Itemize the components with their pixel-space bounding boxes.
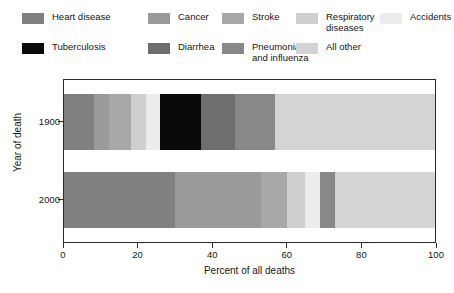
- legend-item: Cancer: [148, 12, 209, 24]
- bar-segment: [275, 94, 435, 150]
- x-tick: [286, 243, 287, 248]
- bar-segment: [305, 172, 320, 228]
- x-tick: [137, 243, 138, 248]
- bar-segment: [235, 94, 276, 150]
- x-tick-label: 20: [132, 249, 143, 260]
- x-tick: [436, 243, 437, 248]
- stacked-bar-chart-figure: Heart diseaseCancerStrokeRespiratory dis…: [0, 0, 454, 293]
- legend-item: Respiratory diseases: [296, 12, 375, 33]
- legend-swatch: [22, 13, 44, 24]
- legend-label: Respiratory diseases: [326, 12, 375, 33]
- plot-area: [63, 79, 436, 243]
- chart-legend: Heart diseaseCancerStrokeRespiratory dis…: [0, 0, 454, 76]
- y-axis-title: Year of death: [12, 98, 23, 188]
- stacked-bar-2000: [64, 172, 435, 228]
- stacked-bar-1900: [64, 94, 435, 150]
- legend-swatch: [22, 43, 44, 54]
- legend-swatch: [222, 43, 244, 54]
- bar-segment: [287, 172, 306, 228]
- x-tick: [212, 243, 213, 248]
- legend-item: Heart disease: [22, 12, 111, 24]
- legend-item: Tuberculosis: [22, 42, 106, 54]
- legend-item: All other: [296, 42, 361, 54]
- legend-label: Stroke: [252, 12, 279, 23]
- legend-label: Accidents: [410, 12, 451, 23]
- y-axis-tick-labels: 19002000: [30, 79, 60, 243]
- legend-item: Stroke: [222, 12, 279, 24]
- x-tick: [63, 243, 64, 248]
- legend-swatch: [296, 13, 318, 24]
- y-tick-label: 2000: [39, 194, 60, 205]
- legend-label: All other: [326, 42, 361, 53]
- bar-segment: [64, 172, 175, 228]
- bar-segment: [261, 172, 287, 228]
- legend-label: Heart disease: [52, 12, 111, 23]
- x-tick-label: 100: [428, 249, 444, 260]
- bar-segment: [64, 94, 94, 150]
- bar-segment: [201, 94, 234, 150]
- x-axis-tick-labels: 020406080100: [63, 249, 436, 263]
- x-axis-title: Percent of all deaths: [63, 265, 436, 276]
- legend-label: Tuberculosis: [52, 42, 106, 53]
- bar-segment: [175, 172, 260, 228]
- bar-segment: [131, 94, 146, 150]
- x-tick-label: 80: [356, 249, 367, 260]
- bar-segment: [335, 172, 435, 228]
- legend-swatch: [222, 13, 244, 24]
- bar-segment: [320, 172, 335, 228]
- legend-label: Diarrhea: [178, 42, 214, 53]
- legend-label: Cancer: [178, 12, 209, 23]
- legend-item: Accidents: [380, 12, 451, 24]
- bar-segment: [109, 94, 131, 150]
- bar-segment: [94, 94, 109, 150]
- x-tick-label: 60: [282, 249, 293, 260]
- bar-segment: [146, 94, 161, 150]
- legend-swatch: [296, 43, 318, 54]
- y-tick-label: 1900: [39, 116, 60, 127]
- legend-item: Diarrhea: [148, 42, 214, 54]
- legend-swatch: [380, 13, 402, 24]
- legend-swatch: [148, 43, 170, 54]
- x-tick-label: 0: [60, 249, 65, 260]
- x-tick-label: 40: [207, 249, 218, 260]
- x-tick: [361, 243, 362, 248]
- legend-swatch: [148, 13, 170, 24]
- x-axis-ticks: [63, 243, 436, 248]
- bar-segment: [160, 94, 201, 150]
